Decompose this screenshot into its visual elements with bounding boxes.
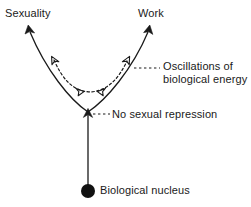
- label-sexuality: Sexuality: [5, 7, 51, 20]
- label-oscillations-line1: Oscillations of: [163, 60, 233, 72]
- oscillation-arrowhead-lower-right: [97, 88, 105, 95]
- oscillation-dashed-curve: [54, 60, 127, 92]
- biological-nucleus-dot: [81, 184, 95, 198]
- label-oscillations-of-biological-energy: Oscillations of biological energy: [163, 60, 247, 86]
- label-no-sexual-repression: No sexual repression: [112, 108, 217, 121]
- sexuality-branch-curve: [30, 32, 88, 112]
- oscillation-arrowhead-upper-right: [122, 56, 129, 64]
- diagram-canvas: Sexuality Work Oscillations of biologica…: [0, 0, 251, 207]
- biological-energy-figure: [0, 0, 251, 207]
- work-branch-curve: [88, 32, 148, 112]
- label-oscillations-line2: biological energy: [163, 73, 247, 86]
- oscillation-arrowhead-upper-left: [52, 56, 59, 64]
- oscillation-arrowhead-lower-left: [76, 88, 84, 95]
- label-biological-nucleus: Biological nucleus: [100, 184, 190, 197]
- label-work: Work: [138, 7, 164, 20]
